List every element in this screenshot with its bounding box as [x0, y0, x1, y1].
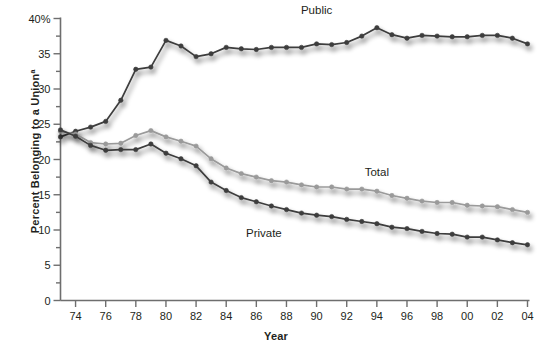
- y-tick-label: 0: [3, 295, 51, 307]
- x-tick-label: 02: [491, 310, 503, 322]
- series-annotation-private: Private: [246, 227, 282, 239]
- series-annotation-public: Public: [301, 4, 332, 16]
- union-membership-chart: 0510152025303540% 7476788082848688909294…: [0, 0, 552, 350]
- y-tick-label: 5: [3, 259, 51, 271]
- y-tick-label: 30: [3, 83, 51, 95]
- y-tick-label: 40%: [3, 13, 51, 25]
- y-tick-label: 15: [3, 189, 51, 201]
- x-tick-label: 88: [280, 310, 292, 322]
- x-tick-label: 98: [431, 310, 443, 322]
- y-axis-title: Percent Belonging to a Uniona: [29, 56, 42, 246]
- x-tick-label: 96: [401, 310, 413, 322]
- y-tick-label: 20: [3, 154, 51, 166]
- series-private: [58, 128, 529, 247]
- x-tick-label: 00: [461, 310, 473, 322]
- x-tick-label: 74: [69, 310, 81, 322]
- x-tick-label: 76: [100, 310, 112, 322]
- x-tick-label: 80: [160, 310, 172, 322]
- series-annotation-total: Total: [365, 166, 389, 178]
- series-public: [58, 26, 529, 140]
- chart-plot-area: [0, 0, 552, 350]
- y-axis-title-superscript: a: [29, 69, 36, 73]
- x-tick-label: 92: [341, 310, 353, 322]
- y-tick-label: 10: [3, 224, 51, 236]
- x-axis-title: Year: [0, 330, 552, 342]
- x-tick-label: 86: [250, 310, 262, 322]
- x-tick-label: 90: [310, 310, 322, 322]
- axes: [54, 18, 530, 308]
- y-axis-title-text: Percent Belonging to a Union: [29, 74, 41, 234]
- x-tick-label: 82: [190, 310, 202, 322]
- x-tick-label: 84: [220, 310, 232, 322]
- y-tick-label: 25: [3, 118, 51, 130]
- x-axis-title-text: Year: [264, 330, 288, 342]
- x-tick-label: 94: [371, 310, 383, 322]
- y-tick-label: 35: [3, 48, 51, 60]
- series-total: [58, 128, 529, 214]
- data-series-group: [58, 26, 529, 248]
- x-tick-label: 78: [130, 310, 142, 322]
- x-tick-label: 04: [521, 310, 533, 322]
